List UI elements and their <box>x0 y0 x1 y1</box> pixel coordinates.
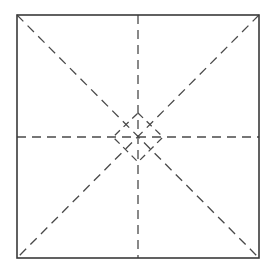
folding-diagram <box>0 0 275 273</box>
